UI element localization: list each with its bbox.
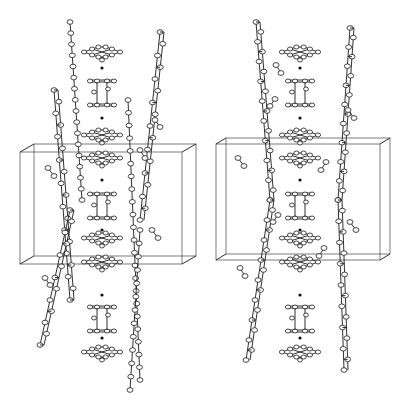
atom — [109, 263, 114, 267]
bond — [216, 138, 226, 144]
atom — [132, 308, 138, 313]
atom — [109, 353, 114, 357]
atom — [92, 90, 97, 94]
atom — [243, 358, 249, 363]
atom — [307, 130, 312, 134]
atom — [103, 231, 108, 235]
atom — [345, 108, 351, 113]
atom — [56, 99, 62, 104]
atom — [267, 148, 273, 153]
atom — [315, 236, 320, 240]
atom — [294, 345, 299, 349]
atom — [77, 164, 83, 169]
atom — [90, 47, 95, 51]
atom — [111, 79, 116, 83]
stacked-dimer — [87, 79, 116, 107]
atom — [109, 53, 114, 57]
atom — [117, 156, 122, 160]
atom — [285, 103, 290, 107]
atom — [111, 329, 116, 333]
atom — [261, 268, 267, 273]
atom — [81, 236, 86, 240]
atom — [106, 200, 111, 204]
atom — [130, 212, 136, 217]
atom — [307, 159, 312, 163]
atom — [301, 45, 306, 49]
atom — [90, 353, 95, 357]
atom — [57, 253, 63, 258]
atom — [117, 133, 122, 137]
inclined-chain — [253, 20, 276, 203]
atom — [100, 58, 105, 62]
atom — [309, 329, 314, 333]
atom — [288, 239, 293, 243]
atom — [92, 203, 97, 207]
atom — [350, 35, 356, 40]
atom — [81, 133, 86, 137]
atom — [147, 159, 153, 164]
atom — [130, 348, 136, 353]
metal-ion — [100, 66, 103, 69]
atom — [288, 153, 293, 157]
atom — [309, 103, 314, 107]
atom — [137, 148, 143, 153]
atom — [288, 233, 293, 237]
atom — [117, 50, 122, 54]
atom — [90, 130, 95, 134]
atom — [337, 240, 343, 245]
atom — [90, 347, 95, 351]
atom — [133, 294, 139, 299]
atom — [90, 153, 95, 157]
atom — [273, 63, 279, 68]
atom — [42, 276, 48, 281]
atom — [298, 164, 303, 168]
atom — [81, 260, 86, 264]
atom — [342, 102, 348, 107]
atom — [87, 216, 92, 220]
atom — [294, 45, 299, 49]
atom — [147, 124, 153, 129]
atom — [237, 266, 243, 271]
atom — [96, 255, 101, 259]
atom — [338, 159, 344, 164]
atom — [90, 159, 95, 163]
atom — [298, 141, 303, 145]
atom — [134, 314, 140, 319]
atom — [298, 358, 303, 362]
atom — [59, 146, 65, 151]
atom — [242, 274, 248, 279]
atom — [288, 47, 293, 51]
atom — [323, 160, 329, 165]
planar-molecule — [81, 151, 122, 168]
metal-ion — [298, 66, 301, 69]
atom — [307, 47, 312, 51]
atom — [136, 241, 142, 246]
atom — [103, 151, 108, 155]
atom — [285, 192, 290, 196]
atom — [307, 257, 312, 261]
atom — [100, 358, 105, 362]
atom — [304, 200, 309, 204]
atom — [279, 260, 284, 264]
atom — [252, 298, 258, 303]
atom — [344, 336, 350, 341]
atom — [134, 281, 140, 286]
planar-molecule — [81, 345, 122, 362]
atom — [343, 315, 349, 320]
atom — [140, 194, 146, 199]
atom — [130, 334, 136, 339]
atom — [100, 244, 105, 248]
atom — [152, 112, 158, 117]
atom — [106, 313, 111, 317]
atom — [285, 216, 290, 220]
atom — [307, 263, 312, 267]
diatomic-fragment — [267, 97, 278, 109]
atom — [348, 73, 354, 78]
atom — [69, 53, 75, 58]
atom — [133, 276, 139, 281]
bond — [380, 138, 390, 144]
atom — [135, 327, 141, 332]
atom — [346, 45, 352, 50]
atom — [152, 77, 158, 82]
atom — [128, 161, 134, 166]
